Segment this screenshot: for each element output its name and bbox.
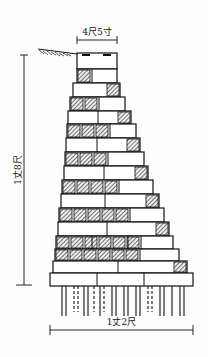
header-stone	[85, 98, 97, 110]
header-stone	[71, 98, 83, 110]
header-stone	[56, 250, 68, 260]
course-row	[64, 166, 148, 180]
header-stone	[88, 209, 100, 221]
stone-course	[58, 222, 169, 236]
header-stone	[94, 153, 106, 165]
label-base-width: 1丈2尺	[107, 317, 136, 327]
course-row	[66, 138, 140, 152]
course-row	[61, 194, 159, 208]
header-stone	[60, 209, 72, 221]
course-row	[55, 249, 179, 261]
course-row	[77, 53, 117, 69]
header-stone	[70, 250, 82, 260]
header-stone	[74, 209, 86, 221]
header-stone	[84, 250, 96, 260]
header-stone	[68, 125, 80, 137]
header-stone	[174, 262, 186, 272]
course-row	[77, 69, 117, 83]
masonry-courses	[50, 53, 193, 286]
header-stone	[107, 84, 119, 96]
course-row	[67, 124, 136, 138]
header-stone	[96, 125, 108, 137]
header-stone	[78, 70, 90, 82]
header-stone	[127, 237, 139, 248]
header-stone	[112, 250, 124, 260]
header-stone	[116, 209, 128, 221]
header-stone	[57, 237, 69, 248]
header-stone	[77, 181, 89, 193]
header-stone	[82, 125, 94, 137]
header-stone	[71, 237, 83, 248]
header-stone	[127, 139, 139, 151]
course-row	[53, 261, 187, 273]
header-stone	[98, 250, 110, 260]
course-row	[62, 180, 153, 194]
header-stone	[85, 237, 97, 248]
header-stone	[135, 167, 147, 179]
diagram-drawing: 4尺5寸 1丈8尺 1丈2尺	[0, 0, 208, 357]
stone-course	[53, 261, 187, 273]
foundation-piles	[62, 286, 184, 316]
course-row	[68, 111, 131, 124]
label-height: 1丈8尺	[13, 155, 23, 184]
stone-course	[50, 273, 193, 286]
course-row	[70, 97, 125, 111]
ground-slope	[38, 49, 77, 56]
course-row	[50, 273, 193, 286]
header-stone	[63, 181, 75, 193]
header-stone	[66, 153, 78, 165]
course-row	[73, 83, 120, 97]
label-top-width: 4尺5寸	[82, 26, 111, 37]
header-stone	[91, 181, 103, 193]
dimension-top-width: 4尺5寸	[77, 26, 117, 44]
course-row	[59, 208, 164, 222]
header-stone	[105, 181, 117, 193]
header-stone	[99, 237, 111, 248]
retaining-wall-cross-section-diagram: 4尺5寸 1丈8尺 1丈2尺	[0, 0, 208, 357]
course-row	[56, 236, 173, 249]
header-stone	[102, 209, 114, 221]
header-stone	[156, 223, 168, 235]
course-row	[58, 222, 169, 236]
header-stone	[118, 112, 130, 123]
header-stone	[80, 153, 92, 165]
header-stone	[126, 250, 138, 260]
header-stone	[113, 237, 125, 248]
dimension-base-width: 1丈2尺	[50, 317, 193, 335]
dimension-height: 1丈8尺	[13, 55, 32, 285]
header-stone	[146, 195, 158, 207]
stone-course	[61, 194, 159, 208]
course-row	[65, 152, 144, 166]
